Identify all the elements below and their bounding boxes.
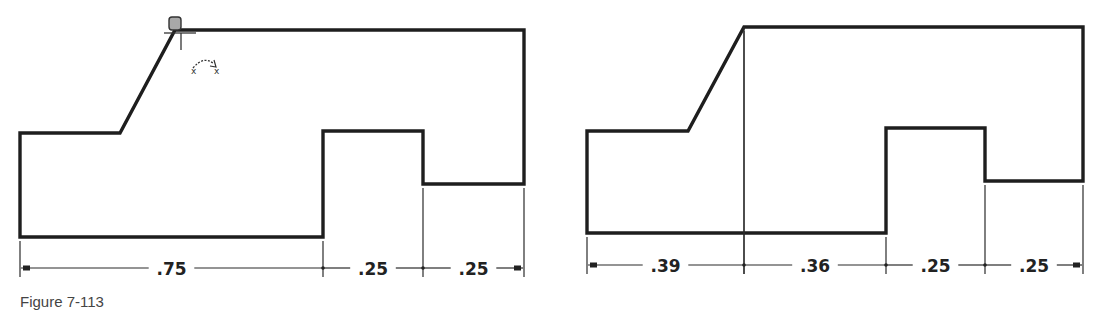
dimension-junction-dot [742,263,746,267]
dimension[interactable]: .25 [983,256,1082,276]
right-dimension-chain: .39.36.25.25 [588,256,1082,276]
left-extension-lines [20,188,524,277]
dimension-terminator [514,266,521,271]
right-view: .39.36.25.25 [587,27,1083,276]
dimension[interactable]: .25 [884,256,984,276]
left-dimension-chain: .75.25.25 [21,259,523,279]
dimension[interactable]: .25 [321,259,422,279]
svg-text:x: x [191,66,197,76]
left-profile-outline[interactable] [20,30,524,237]
figure-caption: Figure 7-113 [20,293,104,310]
dimension[interactable]: .75 [21,259,322,279]
dimension[interactable]: .25 [421,259,523,279]
dimension-value[interactable]: .75 [156,259,186,279]
left-view: .75.25.25 x x [20,17,524,279]
right-extension-lines [587,31,1083,274]
dimension-junction-dot [884,263,888,267]
dimension-junction-dot [421,266,425,270]
dimension-terminator [23,266,30,271]
rotate-arrow-icon: x x [191,60,220,76]
dimension-junction-dot [983,263,987,267]
dimension-terminator [590,263,597,268]
dimension-value[interactable]: .25 [458,259,488,279]
dimension-value[interactable]: .36 [800,256,830,276]
dimension[interactable]: .36 [742,256,885,276]
right-profile-outline[interactable] [587,27,1083,233]
dimension-value[interactable]: .39 [650,256,680,276]
dimension-value[interactable]: .25 [1019,256,1049,276]
dimension-value[interactable]: .25 [920,256,950,276]
dimension-junction-dot [321,266,325,270]
svg-text:x: x [214,66,220,76]
dimension-terminator [1073,263,1080,268]
dimension[interactable]: .39 [588,256,743,276]
dimension-value[interactable]: .25 [358,259,388,279]
